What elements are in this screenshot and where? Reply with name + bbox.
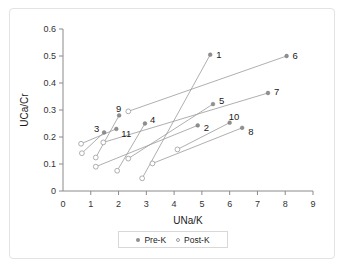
- y-axis-tick-label: 0.4: [43, 78, 56, 88]
- y-axis-tick-label: 0.6: [43, 24, 56, 34]
- x-axis-tick-label: 7: [255, 199, 260, 209]
- point-label: 8: [248, 126, 253, 137]
- point-label: 7: [274, 86, 279, 97]
- data-point-pre-k: [285, 54, 289, 58]
- x-axis-tick-label: 2: [116, 199, 121, 209]
- point-label: 1: [216, 49, 221, 60]
- scatter-plot: 00.10.20.30.40.50.60123456789 1234567891…: [10, 9, 336, 260]
- data-point-post-k: [79, 141, 84, 146]
- chart-legend: Pre-K Post-K: [118, 231, 228, 248]
- point-label: 6: [293, 50, 298, 61]
- data-point-post-k: [93, 155, 98, 160]
- data-point-pre-k: [102, 131, 106, 135]
- open-circle-icon: [176, 238, 180, 242]
- point-label: 5: [219, 95, 224, 106]
- x-axis-tick-label: 5: [199, 199, 204, 209]
- axes: 00.10.20.30.40.50.60123456789: [43, 24, 315, 209]
- x-axis-tick-label: 6: [227, 199, 232, 209]
- pair-connector-line: [96, 125, 198, 166]
- data-point-post-k: [126, 156, 131, 161]
- legend-entry-post-k: Post-K: [176, 235, 210, 245]
- data-point-pre-k: [114, 127, 118, 131]
- legend-label-post-k: Post-K: [184, 235, 210, 245]
- legend-entry-pre-k: Pre-K: [136, 235, 166, 245]
- data-point-post-k: [101, 140, 106, 145]
- x-axis-tick-label: 8: [283, 199, 288, 209]
- y-axis-tick-label: 0.2: [43, 132, 56, 142]
- x-axis-tick-label: 4: [172, 199, 177, 209]
- data-point-pre-k: [196, 123, 200, 127]
- data-point-post-k: [140, 176, 145, 181]
- data-points: [79, 53, 289, 181]
- y-axis-tick-label: 0.1: [43, 159, 56, 169]
- chart-frame: 00.10.20.30.40.50.60123456789 1234567891…: [9, 8, 335, 259]
- point-label: 3: [94, 123, 99, 134]
- pair-connector-line: [128, 56, 286, 111]
- y-axis-tick-label: 0.3: [43, 105, 56, 115]
- x-axis-tick-label: 1: [88, 199, 93, 209]
- point-label: 10: [229, 111, 240, 122]
- data-point-post-k: [126, 109, 131, 114]
- data-point-post-k: [115, 168, 120, 173]
- data-point-pre-k: [143, 122, 147, 126]
- pair-connector-line: [152, 128, 242, 164]
- data-point-pre-k: [240, 126, 244, 130]
- legend-label-pre-k: Pre-K: [144, 235, 166, 245]
- x-axis-tick-label: 9: [310, 199, 315, 209]
- point-label: 2: [204, 122, 209, 133]
- y-axis-tick-label: 0.5: [43, 51, 56, 61]
- data-point-pre-k: [211, 102, 215, 106]
- point-label: 11: [121, 128, 131, 139]
- point-label: 4: [150, 114, 155, 125]
- x-axis-title: UNa/K: [173, 215, 203, 226]
- data-point-post-k: [79, 151, 84, 156]
- y-axis-title: UCa/Cr: [19, 93, 30, 127]
- x-axis-tick-label: 3: [144, 199, 149, 209]
- data-point-post-k: [93, 164, 98, 169]
- data-point-post-k: [150, 161, 155, 166]
- connector-lines: [81, 55, 287, 179]
- data-point-post-k: [175, 147, 180, 152]
- y-axis-tick-label: 0: [51, 186, 56, 196]
- data-point-pre-k: [208, 53, 212, 57]
- data-point-pre-k: [266, 91, 270, 95]
- filled-circle-icon: [136, 238, 140, 242]
- x-axis-tick-label: 0: [60, 199, 65, 209]
- point-label: 9: [116, 103, 121, 114]
